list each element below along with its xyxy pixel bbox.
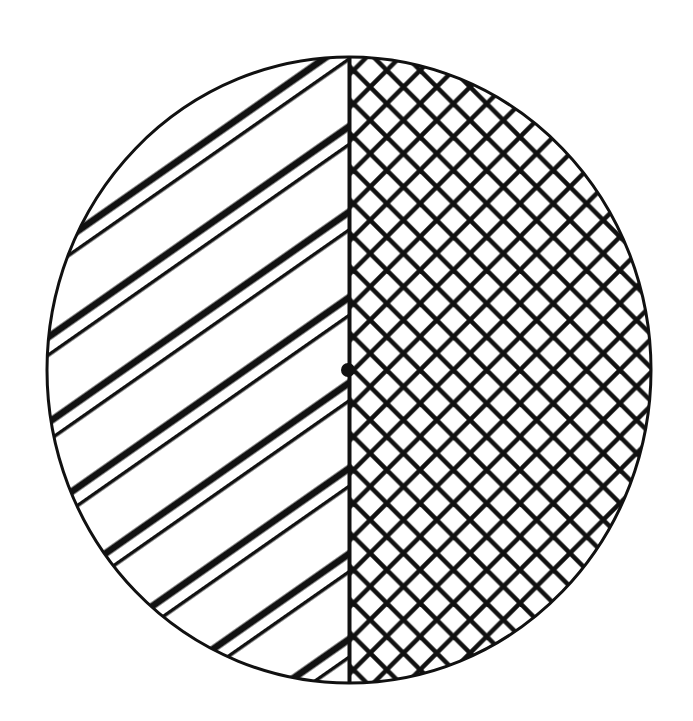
left-half-hatched-region (40, 50, 349, 690)
hatched-circle-diagram (0, 0, 693, 721)
center-point-dot (341, 363, 355, 377)
diagram-canvas: Circle divided into two hatched halves (0, 0, 693, 721)
right-half-crosshatched-region (349, 50, 659, 690)
